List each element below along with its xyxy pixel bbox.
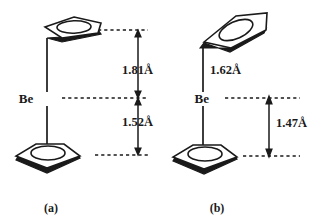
- arrowhead-down-icon: [135, 148, 141, 155]
- panel-b-upper-distance-label: 1.62Å: [210, 63, 241, 77]
- arrowhead-up-icon: [266, 96, 272, 104]
- arrowhead-up-icon: [135, 98, 141, 105]
- panel-b-tilted-cp-ring: [200, 13, 267, 52]
- panel-a-lower-distance-label: 1.52Å: [122, 115, 153, 129]
- panel-a-lower-cp-ring: [16, 144, 80, 173]
- figure-container: Be 1.81Å 1.52Å (a): [0, 0, 321, 220]
- panel-b-atom-label: Be: [195, 91, 210, 106]
- cp-ring-outline: [204, 13, 267, 48]
- panel-a-upper-distance-label: 1.81Å: [122, 63, 153, 77]
- panel-b-caption: (b): [210, 201, 225, 215]
- panel-a-atom-label: Be: [19, 91, 34, 106]
- panel-b-structure: Be 1.62Å 1.47Å (b): [173, 13, 307, 215]
- panel-b-lower-distance-label: 1.47Å: [276, 116, 307, 130]
- panel-a-caption: (a): [44, 201, 58, 215]
- panel-a-structure: Be 1.81Å 1.52Å (a): [16, 17, 153, 215]
- panel-b-lower-cp-ring: [173, 145, 237, 174]
- beryllocene-diagram: Be 1.81Å 1.52Å (a): [0, 0, 321, 220]
- panel-a-upper-cp-ring: [45, 17, 101, 42]
- panel-b-lower-dimension: [266, 96, 272, 157]
- arrowhead-up-icon: [135, 30, 141, 37]
- arrowhead-down-icon: [266, 149, 272, 157]
